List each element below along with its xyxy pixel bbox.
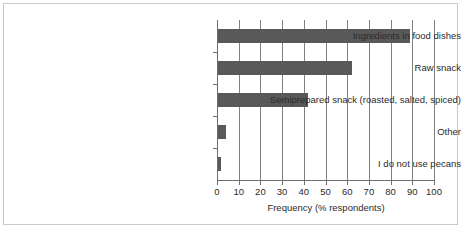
category-label: Raw snack: [248, 62, 461, 73]
x-tick-30: [282, 181, 283, 185]
category-label: Ingredients in food dishes: [248, 30, 461, 41]
x-tick-10: [239, 181, 240, 185]
y-tick: [213, 52, 217, 53]
x-tick-100: [434, 181, 435, 185]
category-label: Other: [248, 126, 461, 137]
x-tick-80: [391, 181, 392, 185]
y-tick: [213, 148, 217, 149]
bar-item: [217, 125, 226, 139]
category-label: Semiprepared snack (roasted, salted, spi…: [248, 94, 461, 105]
category-label: I do not use pecans: [248, 158, 461, 169]
x-tick-50: [326, 181, 327, 185]
x-tick-70: [369, 181, 370, 185]
x-tick-40: [304, 181, 305, 185]
y-tick: [213, 116, 217, 117]
chart-figure: 0102030405060708090100 Ingredients in fo…: [0, 0, 461, 228]
x-tick-90: [412, 181, 413, 185]
bar: [217, 125, 226, 139]
x-tick-label-100: 100: [419, 186, 449, 197]
x-tick-20: [260, 181, 261, 185]
x-axis-title: Frequency (% respondents): [217, 202, 435, 213]
y-axis-line: [217, 20, 218, 181]
x-tick-60: [347, 181, 348, 185]
y-tick: [213, 84, 217, 85]
x-tick-0: [217, 181, 218, 185]
